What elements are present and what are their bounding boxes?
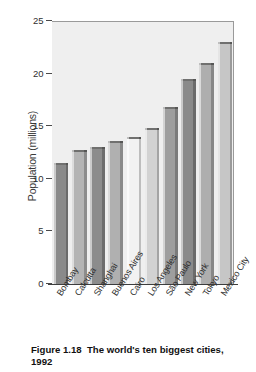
caption-figure-number: Figure 1.18 bbox=[31, 344, 82, 355]
x-axis-category-labels: BombayCalcuttaShanghaiBuenos AiresCairoL… bbox=[0, 0, 256, 372]
figure-population-chart: Population (millions) 2520151050 BombayC… bbox=[0, 0, 256, 372]
figure-caption: Figure 1.18 The world's ten biggest citi… bbox=[31, 344, 235, 367]
x-label-mexico-city: Mexico City bbox=[219, 255, 251, 298]
x-label-cairo: Cairo bbox=[128, 275, 147, 298]
